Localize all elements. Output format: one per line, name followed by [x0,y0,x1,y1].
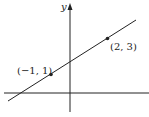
point-label-neg1-1: (−1, 1) [17,65,52,76]
coordinate-plane: y (−1, 1) (2, 3) [0,0,149,117]
y-axis-label: y [60,1,67,12]
graph-line [8,20,136,101]
point-label-2-3: (2, 3) [110,41,137,52]
point-2-3 [106,37,110,41]
y-axis-arrow-icon [68,3,73,10]
